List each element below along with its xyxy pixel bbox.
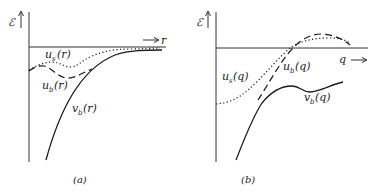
panel-a: ℰ r u s (r) u b (r) v b (r) — [8, 11, 167, 185]
panel-b-label-vb: v b (q) — [304, 91, 331, 106]
panel-b-label-ub: u b (q) — [283, 60, 311, 75]
panel-b-y-arrow-icon — [206, 11, 211, 28]
panel-a-caption: (a) — [73, 174, 87, 185]
svg-text:(q): (q) — [295, 60, 311, 73]
panel-b-caption: (b) — [241, 174, 255, 185]
panel-b-y-axis-label: ℰ — [196, 16, 204, 29]
svg-text:(r): (r) — [54, 79, 68, 92]
panel-a-y-arrow-icon — [19, 11, 24, 28]
diagram-canvas: ℰ r u s (r) u b (r) v b (r) — [0, 0, 378, 194]
panel-a-label-ub: u b (r) — [42, 79, 68, 94]
panel-b-label-us: u s (q) — [222, 70, 249, 85]
svg-text:(r): (r) — [83, 102, 97, 115]
panel-a-x-arrow-icon — [143, 38, 159, 43]
svg-text:s: s — [52, 55, 56, 63]
panel-a-x-axis-label: r — [161, 34, 167, 47]
panel-a-curve-vb — [46, 50, 162, 160]
panel-a-curve-ub — [29, 66, 92, 78]
panel-a-label-us: u s (r) — [45, 48, 71, 63]
svg-text:(q): (q) — [233, 70, 249, 83]
panel-b-x-axis-label: q — [339, 53, 346, 66]
svg-text:(r): (r) — [57, 48, 71, 61]
panel-b-x-arrow-icon — [351, 58, 367, 63]
panel-a-label-vb: v b (r) — [72, 102, 97, 117]
panel-a-y-axis-label: ℰ — [8, 16, 16, 29]
svg-text:(q): (q) — [315, 91, 331, 104]
panel-b: ℰ q u s (q) u b (q) v b (q) — [196, 11, 368, 185]
